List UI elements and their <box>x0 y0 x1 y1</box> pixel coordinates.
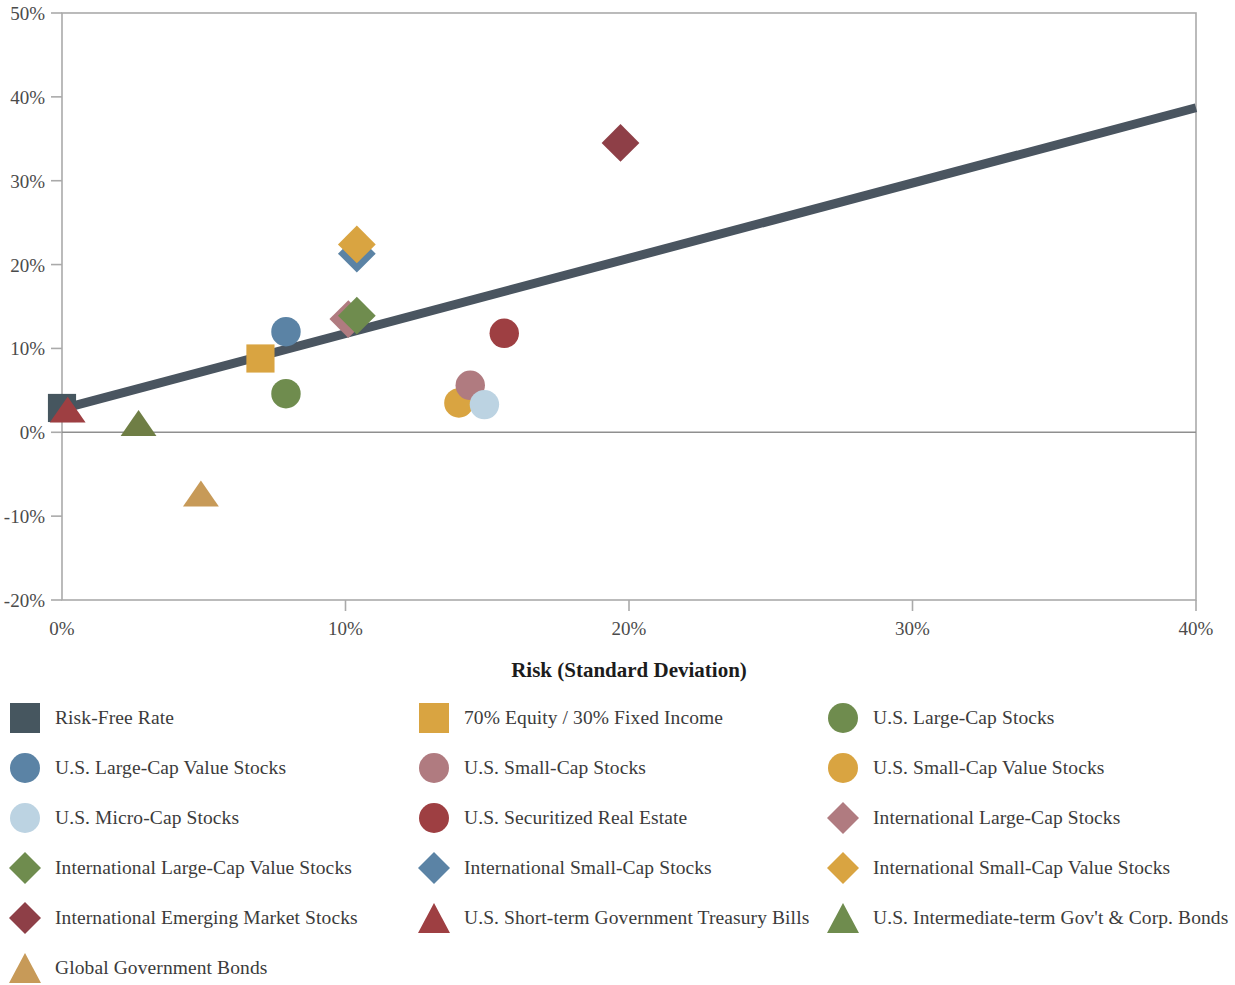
x-axis-tick-label: 20% <box>612 618 647 639</box>
y-axis-tick-label: 40% <box>10 87 45 108</box>
legend-marker-square <box>419 703 449 733</box>
legend-swatch-icon <box>826 701 860 735</box>
legend-swatch-icon <box>417 851 451 885</box>
legend-marker-circle <box>10 753 40 783</box>
y-axis-tick-label: 0% <box>20 422 46 443</box>
legend-marker-diamond <box>9 902 41 934</box>
data-point-circle <box>271 317 300 346</box>
legend-grid: Risk-Free Rate70% Equity / 30% Fixed Inc… <box>8 693 1227 985</box>
y-axis-tick-label: 50% <box>10 3 45 24</box>
legend-item[interactable]: International Small-Cap Stocks <box>417 843 826 893</box>
legend-swatch-icon <box>417 801 451 835</box>
legend-item[interactable]: U.S. Securitized Real Estate <box>417 793 826 843</box>
legend-swatch-icon <box>8 951 42 985</box>
legend-item-label: U.S. Small-Cap Value Stocks <box>873 757 1104 779</box>
legend-marker-diamond <box>9 852 41 884</box>
legend-swatch-icon <box>417 701 451 735</box>
y-axis-tick-label: -10% <box>4 506 45 527</box>
legend-swatch-icon <box>826 851 860 885</box>
y-axis-tick-label: 10% <box>10 338 45 359</box>
legend-swatch-icon <box>826 801 860 835</box>
legend-swatch-icon <box>826 901 860 935</box>
legend-marker-circle <box>828 753 858 783</box>
legend-item[interactable]: 70% Equity / 30% Fixed Income <box>417 693 826 743</box>
legend-item-label: International Emerging Market Stocks <box>55 907 358 929</box>
legend-swatch-icon <box>8 851 42 885</box>
legend-marker-diamond <box>418 852 450 884</box>
legend-item-label: International Small-Cap Value Stocks <box>873 857 1170 879</box>
legend-item-label: International Small-Cap Stocks <box>464 857 712 879</box>
legend-item-label: International Large-Cap Value Stocks <box>55 857 352 879</box>
chart-legend: Risk-Free Rate70% Equity / 30% Fixed Inc… <box>0 693 1235 985</box>
legend-item[interactable]: U.S. Intermediate-term Gov't & Corp. Bon… <box>826 893 1235 943</box>
legend-item-label: U.S. Intermediate-term Gov't & Corp. Bon… <box>873 907 1228 929</box>
plot-area-frame <box>62 13 1196 600</box>
legend-item[interactable]: U.S. Large-Cap Stocks <box>826 693 1235 743</box>
legend-marker-triangle <box>418 903 450 933</box>
legend-marker-circle <box>419 803 449 833</box>
legend-item-label: U.S. Securitized Real Estate <box>464 807 687 829</box>
legend-swatch-icon <box>8 901 42 935</box>
chart-canvas: 50%40%30%20%10%0%-10%-20%0%10%20%30%40%R… <box>0 0 1235 690</box>
legend-item-label: U.S. Short-term Government Treasury Bill… <box>464 907 809 929</box>
legend-marker-circle <box>419 753 449 783</box>
data-point-circle <box>470 390 499 419</box>
legend-marker-square <box>10 703 40 733</box>
data-point-square <box>246 344 274 372</box>
legend-marker-circle <box>10 803 40 833</box>
legend-item[interactable]: Global Government Bonds <box>8 943 417 985</box>
x-axis-title: Risk (Standard Deviation) <box>511 658 747 682</box>
legend-item-label: U.S. Small-Cap Stocks <box>464 757 646 779</box>
scatter-chart: 50%40%30%20%10%0%-10%-20%0%10%20%30%40%R… <box>0 0 1235 690</box>
legend-swatch-icon <box>826 751 860 785</box>
legend-item[interactable]: U.S. Small-Cap Stocks <box>417 743 826 793</box>
legend-item-label: U.S. Micro-Cap Stocks <box>55 807 239 829</box>
data-point-circle <box>490 319 519 348</box>
legend-item[interactable]: U.S. Micro-Cap Stocks <box>8 793 417 843</box>
legend-marker-diamond <box>827 852 859 884</box>
legend-item-label: Risk-Free Rate <box>55 707 174 729</box>
data-point-circle <box>271 379 300 408</box>
legend-item-label: International Large-Cap Stocks <box>873 807 1120 829</box>
legend-swatch-icon <box>8 701 42 735</box>
legend-item[interactable]: International Emerging Market Stocks <box>8 893 417 943</box>
legend-item[interactable]: Risk-Free Rate <box>8 693 417 743</box>
x-axis-tick-label: 40% <box>1179 618 1214 639</box>
legend-marker-triangle <box>9 953 41 983</box>
legend-item[interactable]: International Large-Cap Value Stocks <box>8 843 417 893</box>
legend-swatch-icon <box>8 751 42 785</box>
legend-item-label: Global Government Bonds <box>55 957 267 979</box>
y-axis-tick-label: -20% <box>4 590 45 611</box>
x-axis-tick-label: 30% <box>895 618 930 639</box>
x-axis-tick-label: 0% <box>49 618 75 639</box>
legend-marker-triangle <box>827 903 859 933</box>
legend-item[interactable]: International Small-Cap Value Stocks <box>826 843 1235 893</box>
legend-item[interactable]: U.S. Short-term Government Treasury Bill… <box>417 893 826 943</box>
legend-item-label: U.S. Large-Cap Value Stocks <box>55 757 286 779</box>
legend-item[interactable]: U.S. Small-Cap Value Stocks <box>826 743 1235 793</box>
legend-swatch-icon <box>417 901 451 935</box>
legend-item-label: U.S. Large-Cap Stocks <box>873 707 1055 729</box>
legend-marker-diamond <box>827 802 859 834</box>
legend-marker-circle <box>828 703 858 733</box>
legend-item[interactable]: U.S. Large-Cap Value Stocks <box>8 743 417 793</box>
y-axis-tick-label: 20% <box>10 255 45 276</box>
legend-swatch-icon <box>8 801 42 835</box>
legend-swatch-icon <box>417 751 451 785</box>
legend-item[interactable]: International Large-Cap Stocks <box>826 793 1235 843</box>
y-axis-tick-label: 30% <box>10 171 45 192</box>
x-axis-tick-label: 10% <box>328 618 363 639</box>
legend-item-label: 70% Equity / 30% Fixed Income <box>464 707 723 729</box>
